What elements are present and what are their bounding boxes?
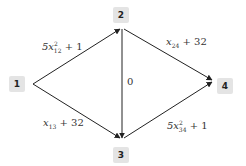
node-2: 2 — [113, 7, 129, 23]
node-1-label: 1 — [14, 79, 20, 89]
node-3: 3 — [113, 147, 129, 163]
node-2-label: 2 — [118, 10, 124, 20]
edge-label-3-4: 5x234 + 1 — [167, 119, 208, 133]
edge-label-2-4: x24 + 32 — [166, 36, 207, 49]
node-3-label: 3 — [118, 150, 124, 160]
node-4-label: 4 — [222, 81, 228, 91]
edge-label-2-3: 0 — [127, 76, 133, 87]
node-1: 1 — [9, 76, 25, 92]
node-4: 4 — [217, 78, 233, 94]
edge-1-2 — [33, 29, 120, 84]
edge-label-1-2: 5x212 + 1 — [42, 40, 83, 54]
edge-label-1-3: x13 + 32 — [43, 117, 84, 130]
edges-layer — [0, 0, 246, 166]
